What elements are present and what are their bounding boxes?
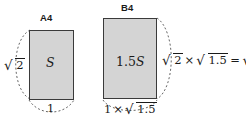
width-label-b4: 1× √ 1.5: [104, 102, 157, 116]
radical-sqrt2-formula: √ 2: [162, 53, 183, 67]
radical-sign-icon: √: [125, 101, 134, 117]
radical-sqrt1point5-b4: √ 1.5: [125, 102, 157, 116]
panel-label-b4: B4: [121, 3, 134, 13]
radical-sqrt3-formula: √ 3: [242, 53, 246, 67]
area-label-b4: 1.5S: [116, 56, 144, 69]
multiplication-sign: ×: [111, 102, 125, 116]
radical-sign-icon: √: [162, 52, 171, 68]
radicand: 2: [15, 58, 24, 72]
height-formula-b4: √ 2 × √ 1.5 = √ 3: [162, 53, 246, 67]
equals-sign: =: [228, 53, 243, 67]
radical-sqrt1point5-formula: √ 1.5: [196, 53, 228, 67]
panel-label-a4: A4: [40, 13, 53, 23]
radicand: 1.5: [136, 102, 156, 116]
radical-sign-icon: √: [196, 52, 205, 68]
multiplication-sign: ×: [183, 53, 197, 67]
radical-sign-icon: √: [4, 57, 13, 73]
radical-sign-icon: √: [242, 52, 246, 68]
width-label-a4: 1: [47, 103, 54, 115]
area-coefficient: 1.5: [116, 54, 136, 69]
area-label-a4: S: [46, 57, 55, 70]
diagram-canvas: A4 S √ 2 1 B4 1.5S 1× √ 1.5 √ 2 × √ 1.5 …: [0, 0, 246, 121]
radical-sqrt2-a4: √ 2: [4, 58, 25, 72]
radicand: 2: [173, 53, 182, 67]
area-symbol: S: [136, 54, 145, 69]
height-label-a4: √ 2: [4, 58, 25, 72]
radicand: 1.5: [208, 53, 228, 67]
